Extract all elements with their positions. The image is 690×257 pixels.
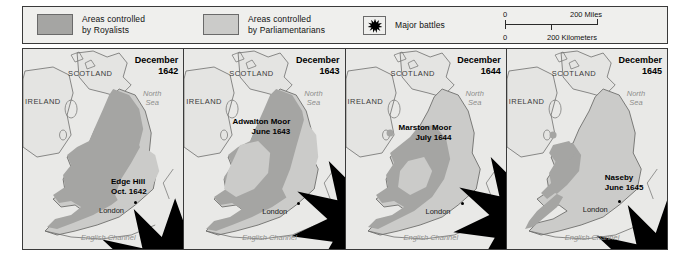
map-panel-1643[interactable]: December 1643 SCOTLAND IRELAND North Sea… [184, 49, 345, 249]
scale-tick-middle [551, 24, 552, 30]
scale-tick-left [505, 20, 506, 29]
legend-item-royalists: Areas controlled by Royalists [37, 14, 145, 35]
scale-tick-right [597, 19, 598, 25]
map-graphic-1643 [184, 49, 344, 249]
map-panel-1645[interactable]: December 1645 SCOTLAND IRELAND North Sea… [507, 49, 667, 249]
starburst-icon [367, 18, 382, 33]
map-graphic-1642 [23, 49, 183, 249]
map-graphic-1644 [346, 49, 506, 249]
royalist-swatch-icon [37, 14, 73, 35]
legend-item-major-battles: Major battles [363, 16, 445, 35]
battle-marker-box [363, 16, 386, 35]
map-graphic-1645 [507, 49, 667, 249]
legend-label-parliamentarians: Areas controlled by Parliamentarians [248, 14, 325, 35]
legend-royalists-line1: Areas controlled [82, 14, 145, 24]
scale-km-zero: 0 [503, 33, 507, 42]
scale-miles-max: 200 Miles [570, 10, 602, 19]
legend-label-major-battles: Major battles [395, 20, 445, 30]
legend-parliamentarians-line1: Areas controlled [248, 14, 311, 24]
scale-km-max: 200 Kilometers [547, 33, 597, 42]
scale-miles-zero: 0 [503, 10, 507, 19]
map-panel-1644[interactable]: December 1644 SCOTLAND IRELAND North Sea… [346, 49, 507, 249]
map-panel-strip: December 1642 SCOTLAND IRELAND North Sea… [22, 48, 668, 250]
map-panel-1642[interactable]: December 1642 SCOTLAND IRELAND North Sea… [23, 49, 184, 249]
legend-item-parliamentarians: Areas controlled by Parliamentarians [203, 14, 325, 35]
legend-label-royalists: Areas controlled by Royalists [82, 14, 145, 35]
legend-parliamentarians-line2: by Parliamentarians [248, 25, 325, 35]
map-legend: Areas controlled by Royalists Areas cont… [22, 6, 668, 44]
legend-royalists-line2: by Royalists [82, 25, 129, 35]
parliamentarian-swatch-icon [203, 14, 239, 35]
scale-bar: 0 200 Miles 0 200 Kilometers [503, 10, 653, 43]
civil-war-map-series: Areas controlled by Royalists Areas cont… [0, 0, 690, 257]
